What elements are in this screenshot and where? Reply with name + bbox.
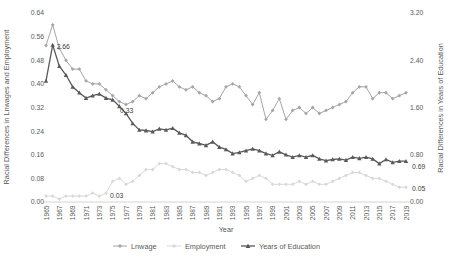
x-tick-label: 1965 [43, 205, 50, 220]
chart-svg: Racial Differences in Lnwages and Employ… [0, 0, 450, 259]
annotation-0-03: 0.03 [110, 192, 123, 199]
x-tick-label: 1991 [216, 205, 223, 220]
x-tick-label: 1971 [83, 205, 90, 220]
x-tick-label: 1993 [229, 205, 236, 220]
annotation-2-66: 2.66 [57, 43, 70, 50]
y-left-tick-label: 0.32 [31, 104, 44, 111]
series-line-years-of-education [46, 45, 406, 164]
y-left-tick-label: 0.48 [31, 57, 44, 64]
y-left-tick-label: 0.16 [31, 151, 44, 158]
x-tick-label: 2019 [403, 205, 410, 220]
y-right-tick-label: 0.80 [410, 151, 423, 158]
y-left-tick-label: 0.64 [31, 9, 44, 16]
x-tick-label: 1975 [109, 205, 116, 220]
left-axis-title: Racial Differences in Lnwages and Employ… [2, 30, 11, 185]
x-tick-label: 1969 [69, 205, 76, 220]
x-tick-label: 2003 [296, 205, 303, 220]
x-tick-label: 2009 [336, 205, 343, 220]
line-chart-figure: Racial Differences in Lnwages and Employ… [0, 0, 450, 259]
series-markers-years-of-education [44, 43, 408, 166]
legend: Lnwage Employment Years of Education [131, 242, 320, 251]
x-tick-label: 2005 [309, 205, 316, 220]
x-tick-label: 2017 [389, 205, 396, 220]
series-markers-employment [44, 162, 408, 201]
series-markers-lnwage [44, 23, 408, 121]
x-tick-label: 2011 [349, 205, 356, 220]
legend-glyph-marker-employment [172, 244, 176, 248]
legend-glyph-marker-lnwage [118, 244, 122, 248]
y-left-tick-label: 0.40 [31, 80, 44, 87]
x-tick-label: 1999 [269, 205, 276, 220]
y-right-tick-label: 0.00 [410, 198, 423, 205]
x-tick-label: 1981 [149, 205, 156, 220]
annotation-0-33: 0.33 [120, 107, 133, 114]
x-tick-label: 1977 [123, 205, 130, 220]
y-right-tick-label: 2.40 [410, 57, 423, 64]
annotation-0-05: 0.05 [412, 185, 425, 192]
x-tick-label: 1995 [243, 205, 250, 220]
x-tick-label: 2013 [363, 205, 370, 220]
x-tick-label: 1985 [176, 205, 183, 220]
x-axis-title: Year [219, 225, 234, 234]
y-left-tick-label: 0.08 [31, 175, 44, 182]
x-tick-label: 1973 [96, 205, 103, 220]
x-tick-label: 2015 [376, 205, 383, 220]
y-left-tick-label: 0.24 [31, 128, 44, 135]
y-right-tick-label: 3.20 [410, 9, 423, 16]
annotation-0-69: 0.69 [412, 163, 425, 170]
x-tick-label: 1983 [163, 205, 170, 220]
x-tick-label: 2001 [283, 205, 290, 220]
x-tick-label: 1997 [256, 205, 263, 220]
y-right-tick-label: 1.60 [410, 104, 423, 111]
y-left-tick-label: 0.00 [31, 198, 44, 205]
legend-lnwage-label: Lnwage [131, 242, 157, 251]
y-left-tick-label: 0.56 [31, 33, 44, 40]
x-tick-label: 1989 [203, 205, 210, 220]
series-line-lnwage [46, 25, 406, 120]
x-tick-label: 1967 [56, 205, 63, 220]
x-tick-label: 2007 [323, 205, 330, 220]
x-tick-label: 1979 [136, 205, 143, 220]
legend-employment-label: Employment [185, 242, 226, 251]
right-axis-title: Racial Differences in Years of Education [436, 43, 445, 173]
legend-years-of-education-label: Years of Education [259, 242, 320, 251]
x-tick-label: 1987 [189, 205, 196, 220]
